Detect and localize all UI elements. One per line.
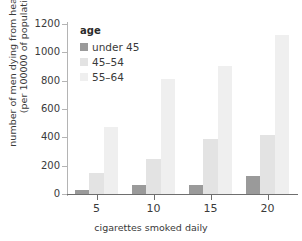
legend-swatch-icon	[80, 73, 88, 81]
x-axis-tick	[211, 195, 212, 200]
legend-item: 55–64	[80, 70, 190, 84]
legend-swatch-icon	[80, 58, 88, 66]
legend-item-label: under 45	[92, 41, 139, 53]
y-axis-tick-label: 0	[4, 189, 60, 199]
y-axis-tick-label: 200	[4, 161, 60, 171]
y-axis: 020040060080010001200	[0, 0, 60, 241]
x-axis-tick-label: 15	[191, 202, 231, 215]
legend-item-label: 45–54	[92, 56, 124, 68]
x-axis-tick-label: 5	[77, 202, 117, 215]
x-axis-tick	[268, 195, 269, 200]
bar	[260, 135, 275, 194]
bar	[189, 185, 204, 194]
legend-items: under 4545–5455–64	[80, 40, 190, 84]
bar	[89, 173, 104, 194]
legend-item: under 45	[80, 40, 190, 54]
legend: age under 4545–5455–64	[80, 25, 190, 85]
y-axis-tick-label: 400	[4, 132, 60, 142]
bar	[203, 139, 218, 194]
legend-item-label: 55–64	[92, 71, 124, 83]
x-axis-tick	[154, 195, 155, 200]
bar	[146, 159, 161, 194]
x-axis-tick-label: 10	[134, 202, 174, 215]
y-axis-tick-label: 600	[4, 104, 60, 114]
x-axis-title: cigarettes smoked daily	[0, 222, 302, 233]
x-axis-line	[67, 194, 298, 195]
bar	[161, 79, 176, 194]
y-axis-tick-label: 1200	[4, 19, 60, 29]
bar	[132, 185, 147, 194]
bar-chart: number of men dying from heart disease (…	[0, 0, 302, 241]
legend-title: age	[80, 25, 190, 36]
y-axis-tick-label: 800	[4, 76, 60, 86]
x-axis-tick	[97, 195, 98, 200]
x-axis-tick-label: 20	[248, 202, 288, 215]
bar	[218, 66, 233, 194]
bar	[246, 176, 261, 194]
legend-item: 45–54	[80, 55, 190, 69]
bar	[104, 127, 119, 194]
y-axis-tick-label: 1000	[4, 47, 60, 57]
bar	[275, 35, 290, 194]
legend-swatch-icon	[80, 43, 88, 51]
